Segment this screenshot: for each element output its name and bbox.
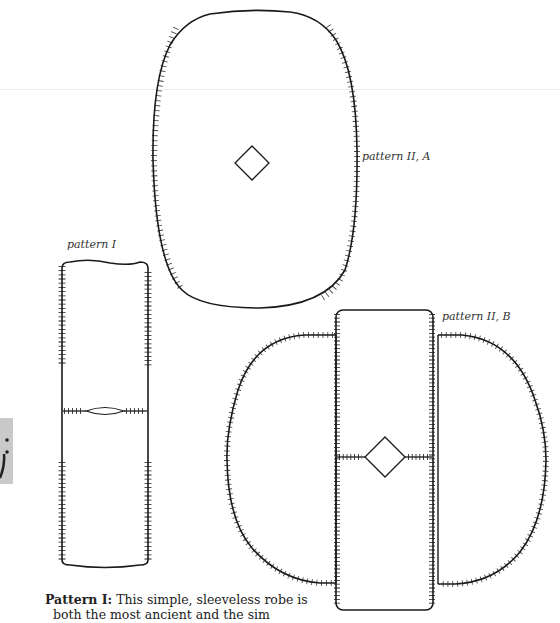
pattern-1-piece [62,260,148,567]
page-edge-tab [0,418,13,484]
caption-line-2: both the most ancient and the sim [45,605,308,623]
diamond-neck-opening-b [365,437,405,477]
label-pattern-2a: pattern II, A [362,150,430,163]
neck-slit [86,408,124,415]
pattern-2a-piece [153,10,357,308]
label-pattern-1: pattern I [67,238,116,251]
label-pattern-2b: pattern II, B [442,310,511,323]
diamond-neck-opening [235,146,269,180]
figure-caption: Pattern I: This simple, sleeveless robe … [45,590,308,623]
pattern-2b-piece [227,310,546,610]
